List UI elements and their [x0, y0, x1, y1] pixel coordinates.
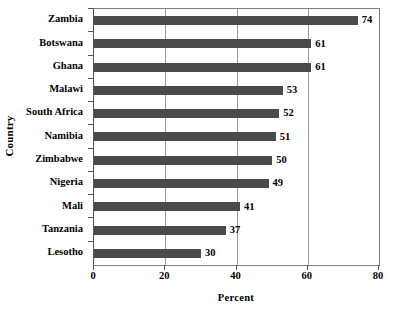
bar-value-label: 50 — [276, 155, 287, 166]
bar-row: 53 — [94, 79, 379, 102]
bar-value-label: 53 — [287, 85, 298, 96]
y-tick-label: Malawi — [14, 78, 88, 101]
bar — [94, 156, 272, 165]
bar — [94, 63, 311, 72]
bar-value-label: 37 — [230, 225, 241, 236]
y-tick-label: Lesotho — [14, 241, 88, 264]
bar — [94, 39, 311, 48]
bar — [94, 179, 269, 188]
bar-row: 61 — [94, 56, 379, 79]
bar-chart: Country Zambia Botswana Ghana Malawi Sou… — [0, 0, 403, 317]
x-axis-title: Percent — [93, 292, 379, 303]
x-axis-tick-label: 20 — [159, 271, 170, 282]
bar — [94, 109, 279, 118]
y-tick-label: Botswana — [14, 31, 88, 54]
y-tick-label: Nigeria — [14, 171, 88, 194]
bar — [94, 86, 283, 95]
bar-value-label: 51 — [280, 132, 291, 143]
bar-value-label: 74 — [362, 15, 373, 26]
y-tick-label: Namibia — [14, 124, 88, 147]
x-axis-tick-label: 40 — [230, 271, 241, 282]
bar — [94, 132, 276, 141]
bar-row: 51 — [94, 125, 379, 148]
bar — [94, 16, 358, 25]
x-axis-tick-labels: 020406080 — [93, 271, 379, 287]
x-axis-tick-label: 60 — [302, 271, 313, 282]
plot-area: 7461615352515049413730 — [93, 8, 380, 266]
y-tick-label: Zambia — [14, 8, 88, 31]
bar-value-label: 30 — [205, 248, 216, 259]
bar-value-label: 49 — [273, 178, 284, 189]
bar-row: 61 — [94, 32, 379, 55]
bar-row: 50 — [94, 149, 379, 172]
bar-value-label: 41 — [244, 202, 255, 213]
y-axis-tick-labels: Zambia Botswana Ghana Malawi South Afric… — [14, 8, 88, 264]
y-tick-label: Mali — [14, 194, 88, 217]
bar-value-label: 61 — [315, 39, 326, 50]
y-tick-label: Ghana — [14, 55, 88, 78]
bar-row: 74 — [94, 9, 379, 32]
bar — [94, 226, 226, 235]
y-tick-label: Zimbabwe — [14, 148, 88, 171]
bar-row: 37 — [94, 218, 379, 241]
bar — [94, 202, 240, 211]
bar-row: 41 — [94, 195, 379, 218]
x-axis-tick-label: 80 — [373, 271, 384, 282]
bar — [94, 249, 201, 258]
bar-row: 49 — [94, 172, 379, 195]
x-axis-tick-label: 0 — [90, 271, 95, 282]
bar-row: 52 — [94, 102, 379, 125]
y-tick-label: South Africa — [14, 101, 88, 124]
y-tick-label: Tanzania — [14, 217, 88, 240]
bars-layer: 7461615352515049413730 — [94, 9, 379, 265]
bar-value-label: 52 — [283, 108, 294, 119]
bar-row: 30 — [94, 242, 379, 265]
bar-value-label: 61 — [315, 62, 326, 73]
